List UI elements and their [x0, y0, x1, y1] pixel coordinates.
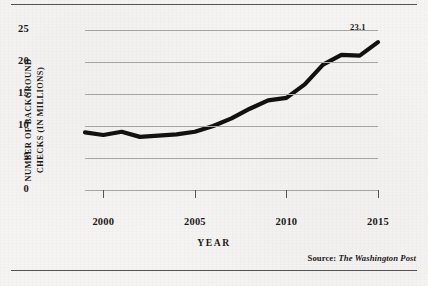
- x-tick-mark-2000: [103, 190, 104, 198]
- chart-figure: NUMBER OF BACKGROUND CHECKS (IN MILLIONS…: [0, 0, 428, 286]
- x-tick-label-2010: 2010: [263, 216, 309, 227]
- gridline-y-10: [85, 126, 378, 127]
- bottom-rule: [11, 270, 417, 271]
- y-tick-label-0: 0: [0, 183, 29, 194]
- x-tick-label-2005: 2005: [172, 216, 218, 227]
- gridline-y-20: [85, 62, 378, 63]
- gridline-y-25: [85, 30, 378, 31]
- source-prefix: Source:: [308, 253, 337, 263]
- x-tick-mark-2010: [286, 190, 287, 198]
- y-tick-label-5: 5: [0, 151, 29, 162]
- plot-area: 23.1 05101520252000200520102015: [85, 30, 378, 213]
- y-tick-label-15: 15: [0, 87, 29, 98]
- x-tick-mark-2015: [378, 190, 379, 198]
- source-publication: The Washington Post: [338, 253, 416, 263]
- top-rule: [11, 4, 417, 5]
- source-note: Source: The Washington Post: [308, 253, 416, 263]
- series-line: [85, 30, 378, 213]
- gridline-y-5: [85, 158, 378, 159]
- gridline-y-0: [85, 190, 378, 191]
- y-tick-label-25: 25: [0, 23, 29, 34]
- x-tick-label-2015: 2015: [355, 216, 401, 227]
- x-tick-label-2000: 2000: [80, 216, 126, 227]
- gridline-y-15: [85, 94, 378, 95]
- y-tick-label-10: 10: [0, 119, 29, 130]
- x-axis-title: YEAR: [0, 237, 428, 248]
- x-tick-mark-2005: [195, 190, 196, 198]
- y-tick-label-20: 20: [0, 55, 29, 66]
